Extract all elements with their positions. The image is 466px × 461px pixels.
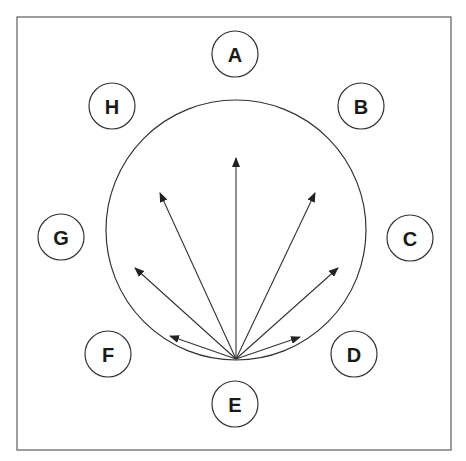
node-c: C	[387, 215, 433, 261]
node-a: A	[212, 31, 258, 77]
node-label: A	[228, 44, 242, 66]
node-label: B	[354, 96, 368, 118]
arrow-5	[236, 193, 315, 359]
arrow-2	[160, 193, 236, 359]
node-g: G	[38, 214, 84, 260]
node-label: H	[105, 96, 119, 118]
node-label: E	[228, 394, 241, 416]
radial-arrow-diagram: ABCDEFGH	[0, 0, 466, 461]
node-label: F	[102, 344, 114, 366]
node-label: G	[53, 227, 69, 249]
arrow-6	[236, 268, 338, 359]
node-h: H	[89, 83, 135, 129]
node-d: D	[331, 331, 377, 377]
node-f: F	[85, 331, 131, 377]
node-label: C	[403, 228, 417, 250]
node-label: D	[347, 344, 361, 366]
node-b: B	[338, 83, 384, 129]
node-e: E	[212, 381, 258, 427]
arrow-3	[135, 268, 236, 359]
arrow-group	[135, 158, 338, 359]
